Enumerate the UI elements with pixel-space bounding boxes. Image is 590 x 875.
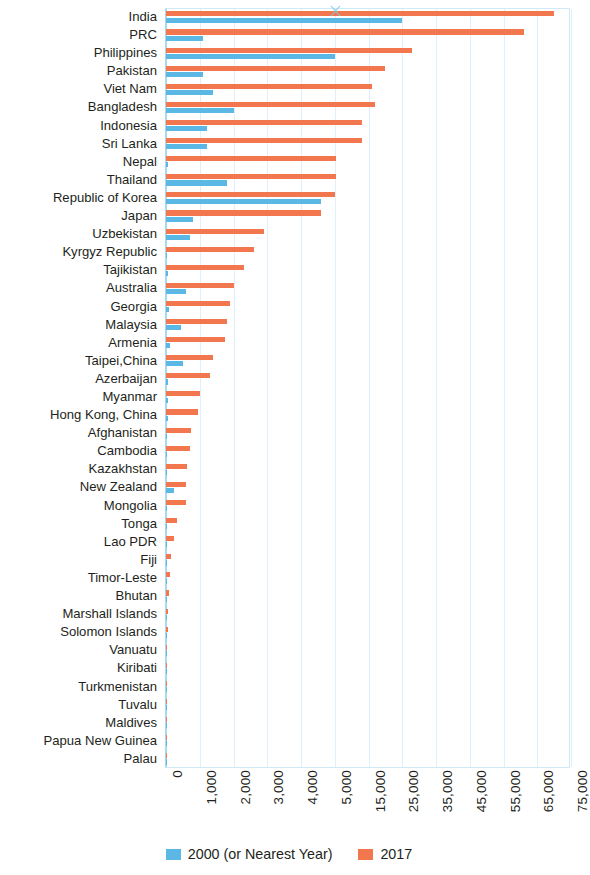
bar-2017 bbox=[166, 482, 186, 487]
legend-item[interactable]: 2000 (or Nearest Year) bbox=[166, 846, 333, 862]
bar-2017 bbox=[166, 265, 244, 270]
bar-2017 bbox=[166, 102, 375, 107]
bar-row bbox=[166, 9, 569, 27]
category-label: Kyrgyz Republic bbox=[0, 243, 161, 261]
category-label: Taipei,China bbox=[0, 352, 161, 370]
bar-2000 bbox=[166, 416, 168, 421]
category-label: Republic of Korea bbox=[0, 189, 161, 207]
bar-2017 bbox=[166, 283, 234, 288]
bar-row bbox=[166, 63, 569, 81]
bar-2000 bbox=[166, 180, 227, 185]
bar-row bbox=[166, 118, 569, 136]
x-tick-label: 35,000 bbox=[435, 770, 450, 812]
bar-2000 bbox=[166, 217, 193, 222]
bar-2000 bbox=[166, 705, 167, 710]
bar-2000 bbox=[166, 271, 168, 276]
category-label: New Zealand bbox=[0, 478, 161, 496]
bar-2000 bbox=[166, 90, 213, 95]
bar-2000 bbox=[166, 434, 167, 439]
x-tick-label: 25,000 bbox=[401, 770, 416, 812]
legend-swatch bbox=[166, 849, 181, 860]
legend-label: 2000 (or Nearest Year) bbox=[188, 846, 333, 862]
bar-row bbox=[166, 715, 569, 733]
x-tick-label: 55,000 bbox=[503, 770, 518, 812]
bar-row bbox=[166, 552, 569, 570]
bar-row bbox=[166, 335, 569, 353]
bar-2000 bbox=[166, 54, 335, 59]
legend-swatch bbox=[358, 849, 373, 860]
bar-2017 bbox=[166, 355, 213, 360]
bar-2000 bbox=[166, 325, 181, 330]
category-label: Timor-Leste bbox=[0, 569, 161, 587]
category-label: Fiji bbox=[0, 551, 161, 569]
bar-2000 bbox=[166, 144, 207, 149]
bar-2000 bbox=[166, 108, 234, 113]
bar-2017 bbox=[166, 409, 198, 414]
bar-2017 bbox=[166, 663, 167, 668]
bar-2000 bbox=[166, 452, 167, 457]
bar-2000 bbox=[166, 506, 167, 511]
bar-row bbox=[166, 262, 569, 280]
category-label: Tajikistan bbox=[0, 261, 161, 279]
category-label: Japan bbox=[0, 207, 161, 225]
bar-row bbox=[166, 299, 569, 317]
bar-2017 bbox=[166, 247, 254, 252]
category-label: Indonesia bbox=[0, 117, 161, 135]
bar-row bbox=[166, 679, 569, 697]
category-label: Thailand bbox=[0, 171, 161, 189]
bar-2017 bbox=[166, 319, 227, 324]
bar-2017 bbox=[166, 210, 321, 215]
legend-label: 2017 bbox=[380, 846, 412, 862]
category-label: Vanuatu bbox=[0, 641, 161, 659]
bar-2000 bbox=[166, 289, 186, 294]
bar-2017 bbox=[166, 11, 554, 16]
bar-2000 bbox=[166, 723, 167, 728]
bar-row bbox=[166, 624, 569, 642]
bar-2000 bbox=[166, 741, 167, 746]
legend-item[interactable]: 2017 bbox=[358, 846, 412, 862]
bar-2017 bbox=[166, 156, 336, 161]
bar-2000 bbox=[166, 18, 402, 23]
bar-row bbox=[166, 479, 569, 497]
bar-row bbox=[166, 407, 569, 425]
category-label: Maldives bbox=[0, 714, 161, 732]
bar-2017 bbox=[166, 627, 168, 632]
bar-row bbox=[166, 606, 569, 624]
x-tick-label: 15,000 bbox=[368, 770, 383, 812]
x-tick-label: 65,000 bbox=[536, 770, 551, 812]
bar-row bbox=[166, 353, 569, 371]
bar-2000 bbox=[166, 669, 167, 674]
category-label: Cambodia bbox=[0, 442, 161, 460]
bar-2000 bbox=[166, 687, 167, 692]
bar-2000 bbox=[166, 579, 167, 584]
bar-2000 bbox=[166, 253, 167, 258]
bar-2017 bbox=[166, 174, 336, 179]
bar-2017 bbox=[166, 428, 191, 433]
bar-rows bbox=[166, 9, 569, 767]
bar-2000 bbox=[166, 126, 207, 131]
bar-2000 bbox=[166, 542, 167, 547]
bar-row bbox=[166, 172, 569, 190]
bar-2000 bbox=[166, 162, 168, 167]
bar-2000 bbox=[166, 307, 169, 312]
category-label: Azerbaijan bbox=[0, 370, 161, 388]
category-label: Solomon Islands bbox=[0, 623, 161, 641]
x-tick-label: 75,000 bbox=[570, 770, 585, 812]
bar-2017 bbox=[166, 464, 187, 469]
bar-row bbox=[166, 660, 569, 678]
bar-row bbox=[166, 136, 569, 154]
bar-row bbox=[166, 317, 569, 335]
bar-2017 bbox=[166, 572, 170, 577]
bar-row bbox=[166, 516, 569, 534]
bar-row bbox=[166, 280, 569, 298]
bar-row bbox=[166, 154, 569, 172]
category-label: Lao PDR bbox=[0, 533, 161, 551]
bar-2000 bbox=[166, 470, 167, 475]
bar-row bbox=[166, 697, 569, 715]
bar-2017 bbox=[166, 337, 225, 342]
bar-2000 bbox=[166, 343, 170, 348]
bar-row bbox=[166, 190, 569, 208]
category-label: Afghanistan bbox=[0, 424, 161, 442]
bar-2017 bbox=[166, 609, 168, 614]
